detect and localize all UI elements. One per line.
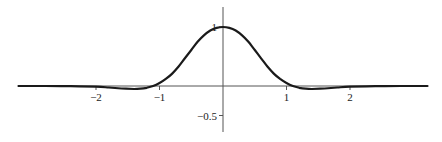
x-tick-label: −1 [154,91,166,103]
x-tick-label: 2 [347,91,353,103]
chart-plot: −2−112 1−0.5 [0,0,442,142]
y-tick-label: −0.5 [197,110,217,122]
y-axis-ticks: 1−0.5 [197,21,223,122]
x-tick-label: −2 [90,91,102,103]
y-axis: 1−0.5 [197,7,223,132]
x-tick-label: 1 [284,91,290,103]
